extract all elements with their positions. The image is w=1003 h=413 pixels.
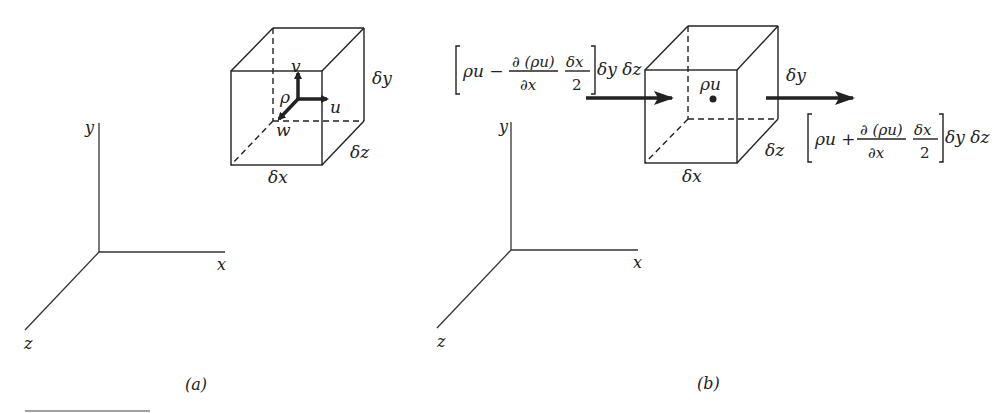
outflow-numerator: ∂ (ρu) xyxy=(860,121,903,139)
caption-b: (b) xyxy=(697,374,720,393)
control-volume-cube-b: ρu δx δy δz xyxy=(645,26,806,186)
axes-b: y x z xyxy=(436,117,642,351)
dy-label: δy xyxy=(786,65,806,85)
right-bracket xyxy=(939,114,943,162)
inflow-tail: δy δz xyxy=(597,59,642,79)
z-axis xyxy=(437,250,511,328)
x-axis-label: x xyxy=(217,255,226,274)
figure-a: y x z v u w ρ xyxy=(23,28,392,394)
figure-canvas: y x z v u w ρ xyxy=(0,0,1003,413)
center-point-icon xyxy=(710,96,717,103)
inflow-half-denominator: 2 xyxy=(572,76,582,94)
inflow-half-numerator: δx xyxy=(566,53,584,71)
outflow-denominator: ∂x xyxy=(868,144,885,162)
inflow-term: ρu − xyxy=(462,61,504,81)
axes-a: y x z xyxy=(23,118,226,353)
dx-label: δx xyxy=(682,166,702,186)
right-bracket xyxy=(591,46,595,94)
dy-label: δy xyxy=(372,68,392,88)
z-axis-label: z xyxy=(436,332,446,351)
control-volume-cube-a: v u w ρ δx δy δz xyxy=(231,28,392,187)
left-bracket xyxy=(808,114,812,162)
z-axis xyxy=(25,252,99,330)
caption-a: (a) xyxy=(185,375,207,394)
u-label: u xyxy=(330,97,341,117)
inflow-flux-expression: ρu − ∂ (ρu) ∂x δx 2 δy δz xyxy=(456,46,642,94)
left-bracket xyxy=(456,46,460,94)
outflow-tail: δy δz xyxy=(945,127,990,147)
outflow-term: ρu + xyxy=(814,129,856,149)
dx-label: δx xyxy=(268,167,288,187)
dz-label: δz xyxy=(765,140,785,160)
z-axis-label: z xyxy=(23,334,33,353)
center-label: ρu xyxy=(699,74,721,94)
outflow-flux-expression: ρu + ∂ (ρu) ∂x δx 2 δy δz xyxy=(808,114,990,162)
w-label: w xyxy=(276,120,291,140)
v-label: v xyxy=(291,56,301,76)
density-label: ρ xyxy=(279,87,290,107)
figure-b: y x z ρu δx δy δz ρu − ∂ xyxy=(436,26,990,393)
outflow-half-numerator: δx xyxy=(914,121,932,139)
dz-label: δz xyxy=(350,142,370,162)
y-axis-label: y xyxy=(84,118,95,137)
x-axis-label: x xyxy=(633,253,642,272)
outflow-half-denominator: 2 xyxy=(920,144,930,162)
inflow-numerator: ∂ (ρu) xyxy=(512,53,555,71)
y-axis-label: y xyxy=(498,117,509,136)
inflow-denominator: ∂x xyxy=(520,76,537,94)
